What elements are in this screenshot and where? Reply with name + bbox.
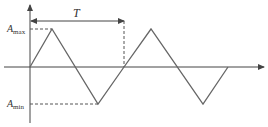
period-label: T: [73, 6, 81, 20]
triangle-wave-diagram: T Amax Amin: [0, 0, 268, 127]
amin-label: Amin: [6, 98, 24, 111]
amax-label: Amax: [6, 23, 26, 36]
